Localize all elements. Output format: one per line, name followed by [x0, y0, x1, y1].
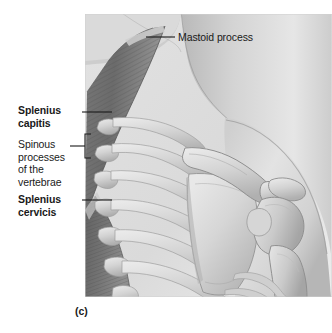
label-mastoid-process: Mastoid process [178, 31, 253, 44]
anatomical-figure: Splenius capitis Spinous processes of th… [0, 0, 332, 333]
greater-tubercle [247, 208, 272, 236]
anatomy-illustration [85, 14, 332, 297]
figure-caption: (c) [75, 305, 88, 317]
illustration-panel [85, 14, 332, 297]
label-spinous-processes: Spinous processes of the vertebrae [18, 138, 65, 188]
label-splenius-capitis: Splenius capitis [18, 104, 61, 129]
label-splenius-cervicis: Splenius cervicis [18, 193, 61, 218]
